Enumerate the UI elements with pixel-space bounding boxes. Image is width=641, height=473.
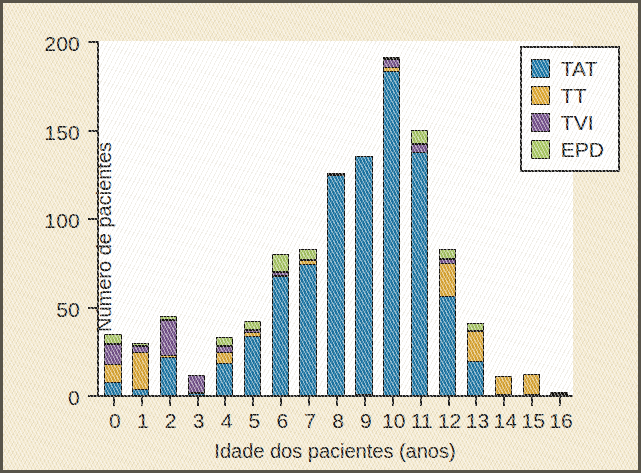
bar-segment-epd [104, 334, 121, 345]
x-axis-tick-label: 12 [438, 409, 461, 433]
bar-segment-epd [272, 254, 289, 272]
bar-segment-tat [327, 175, 344, 396]
x-axis-tick-label: 16 [549, 409, 572, 433]
x-axis-tick-label: 7 [304, 409, 316, 433]
bar-segment-tat [244, 336, 261, 396]
bar-segment-tat [355, 156, 372, 395]
x-axis-tick-label: 1 [137, 409, 149, 433]
bar-column [272, 250, 289, 395]
x-axis-tick-label: 2 [165, 409, 177, 433]
bar-segment-tat [411, 152, 428, 396]
bar-column [467, 321, 484, 395]
bar-segment-tat [383, 71, 400, 397]
x-axis-tick: 9 [364, 395, 366, 406]
legend: TATTTTVIEPD [520, 46, 620, 172]
bar-segment-tt [495, 376, 512, 395]
legend-item-label: TT [561, 85, 587, 106]
bar-column [495, 376, 512, 395]
y-axis-tick-label: 150 [44, 121, 80, 145]
bar-column [132, 338, 149, 395]
y-axis-tick-label: 100 [44, 209, 80, 233]
legend-item-tat: TAT [531, 55, 604, 82]
x-axis-tick-label: 9 [360, 409, 372, 433]
bar-segment-tt [439, 263, 456, 297]
x-axis-tick: 8 [336, 395, 338, 406]
x-axis-tick: 4 [224, 395, 226, 406]
x-axis-tick-label: 11 [411, 409, 433, 433]
x-axis-tick: 12 [448, 395, 450, 406]
bar-segment-tt [104, 364, 121, 383]
x-axis-tick-label: 15 [521, 409, 544, 433]
chart-figure: Número de pacientes 05010015020001234567… [0, 0, 641, 473]
y-axis-label: Número de pacientes [93, 141, 116, 331]
bar-segment-tvi [104, 344, 121, 365]
bar-column [244, 317, 261, 395]
x-axis-tick-label: 3 [193, 409, 205, 433]
bar-column [216, 333, 233, 395]
bar-column [188, 374, 205, 395]
bar-segment-epd [299, 249, 316, 260]
bar-segment-tt [523, 374, 540, 395]
x-axis-tick: 7 [308, 395, 310, 406]
bar-segment-tat [216, 363, 233, 397]
x-axis-tick-label: 8 [332, 409, 344, 433]
bar-segment-tat [160, 357, 177, 396]
x-axis-tick: 16 [559, 395, 561, 406]
y-axis-tick: 200 [88, 41, 99, 43]
bar-segment-epd [216, 337, 233, 346]
x-axis-tick-label: 13 [466, 409, 489, 433]
x-axis-tick-label: 14 [494, 409, 517, 433]
bar-segment-tat [467, 361, 484, 396]
bar-column [104, 330, 121, 395]
x-axis-tick-label: 6 [276, 409, 288, 433]
x-axis-tick: 5 [252, 395, 254, 406]
legend-item-tt: TT [531, 82, 604, 109]
bar-segment-epd [467, 323, 484, 330]
x-axis-tick: 10 [392, 395, 394, 406]
bar-segment-tvi [160, 320, 177, 357]
x-axis-tick-label: 4 [221, 409, 233, 433]
y-axis-tick-label: 200 [44, 32, 80, 56]
bar-column [160, 312, 177, 395]
x-axis-tick-label: 5 [249, 409, 261, 433]
bar-segment-epd [411, 130, 428, 144]
bar-segment-tat [299, 264, 316, 397]
y-axis-tick-label: 50 [56, 298, 80, 322]
y-axis-tick-label: 0 [68, 386, 80, 410]
x-axis-tick-label: 0 [109, 409, 121, 433]
legend-item-label: TVI [561, 112, 594, 133]
legend-swatch-icon [531, 59, 550, 78]
bar-segment-tat [439, 296, 456, 397]
bar-column [383, 53, 400, 395]
bar-group [99, 41, 573, 395]
x-axis-tick: 14 [503, 395, 505, 406]
bar-segment-epd [439, 249, 456, 260]
bar-segment-tat [272, 276, 289, 396]
plot-area: 050100150200012345678910111213141516 [97, 41, 573, 397]
y-axis-tick: 150 [88, 130, 99, 132]
x-axis-tick: 2 [169, 395, 171, 406]
bar-segment-epd [244, 321, 261, 330]
legend-swatch-icon [531, 86, 550, 105]
legend-item-epd: EPD [531, 136, 604, 163]
bar-column [327, 172, 344, 395]
legend-swatch-icon [531, 140, 550, 159]
x-axis-tick: 0 [113, 395, 115, 406]
y-axis-tick: 0 [88, 395, 99, 397]
legend-item-label: TAT [561, 58, 598, 79]
bar-segment-tvi [188, 375, 205, 393]
x-axis-tick: 13 [475, 395, 477, 406]
bar-column [523, 374, 540, 395]
bar-segment-tt [132, 352, 149, 391]
x-axis-tick: 15 [531, 395, 533, 406]
bar-column [411, 126, 428, 395]
bar-segment-tt [467, 331, 484, 363]
legend-swatch-icon [531, 113, 550, 132]
x-axis-tick-label: 10 [382, 409, 405, 433]
x-axis-tick: 11 [420, 395, 422, 406]
legend-item-tvi: TVI [531, 109, 604, 136]
x-axis-tick: 3 [197, 395, 199, 406]
x-axis-tick: 6 [280, 395, 282, 406]
bar-column [299, 246, 316, 395]
bar-column [355, 156, 372, 395]
